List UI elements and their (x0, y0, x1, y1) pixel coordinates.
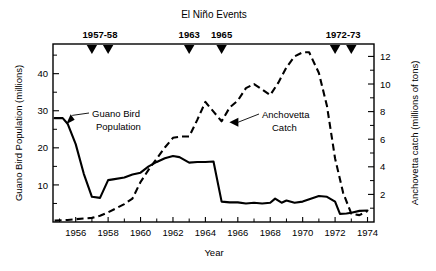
y-right-tick-label: 10 (380, 79, 391, 90)
y-right-tick-label: 4 (380, 161, 385, 172)
y-left-tick-label: 40 (37, 68, 48, 79)
guano-arrow-head (66, 114, 75, 124)
el-nino-marker-triangle (87, 45, 97, 54)
chart-figure: El Niño Events 1957-58196319651972-73 19… (0, 0, 436, 271)
x-tick-label: 1972 (325, 227, 346, 238)
x-tick-label: 1964 (195, 227, 216, 238)
x-tick-label: 1960 (130, 227, 151, 238)
data-series-group (55, 52, 368, 220)
annotation-anchovetta-line1: Anchovetta (262, 109, 310, 120)
y-left-tick-label: 30 (37, 105, 48, 116)
el-nino-event-label: 1957-58 (83, 29, 118, 40)
annotation-anchovetta-catch: Anchovetta Catch (229, 109, 310, 133)
annotation-guano-line2: Population (96, 121, 141, 132)
x-tick-label: 1958 (98, 227, 119, 238)
x-tick-label: 1970 (292, 227, 313, 238)
series-guano-bird-population (55, 118, 368, 214)
y-right-tick-label: 6 (380, 134, 385, 145)
chart-annotations: Guano Bird Population Anchovetta Catch (66, 108, 310, 133)
y-right-tick-label: 8 (380, 106, 385, 117)
x-tick-label: 1966 (227, 227, 248, 238)
anchovetta-leader-line (238, 114, 259, 122)
el-nino-event-markers: 1957-58196319651972-73 (83, 29, 361, 54)
y-axis-left-ticks: 10203040 (37, 55, 59, 203)
y-left-tick-label: 10 (37, 180, 48, 191)
x-tick-label: 1962 (162, 227, 183, 238)
y-axis-right-title: Anchovetta catch (millions of tons) (409, 61, 420, 206)
annotation-guano-line1: Guano Bird (92, 108, 140, 119)
x-axis-ticks: 1956195819601962196419661968197019721974 (59, 217, 378, 238)
y-right-tick-label: 12 (380, 51, 391, 62)
el-nino-event-label: 1965 (211, 29, 233, 40)
annotation-anchovetta-line2: Catch (272, 122, 297, 133)
el-nino-guano-anchovetta-chart: El Niño Events 1957-58196319651972-73 19… (0, 0, 436, 271)
x-tick-label: 1968 (260, 227, 281, 238)
x-tick-label: 1974 (357, 227, 378, 238)
el-nino-marker-triangle (330, 45, 340, 54)
anchovetta-arrow-head (229, 118, 238, 127)
el-nino-marker-triangle (103, 45, 113, 54)
el-nino-event-label: 1963 (179, 29, 200, 40)
y-right-tick-label: 2 (380, 189, 385, 200)
el-nino-marker-triangle (346, 45, 356, 54)
annotation-guano-bird-population: Guano Bird Population (66, 108, 141, 132)
page-title: El Niño Events (181, 9, 247, 20)
chart-title-group: El Niño Events (181, 9, 247, 20)
x-tick-label: 1956 (65, 227, 86, 238)
el-nino-event-label: 1972-73 (326, 29, 361, 40)
y-left-tick-label: 20 (37, 142, 48, 153)
x-axis-title: Year (204, 247, 223, 258)
el-nino-marker-triangle (216, 45, 226, 54)
y-axis-right-ticks: 24681012 (368, 51, 391, 208)
y-axis-left-title: Guano Bird Population (millions) (13, 65, 24, 201)
el-nino-marker-triangle (184, 45, 194, 54)
guano-leader-line (72, 113, 89, 115)
